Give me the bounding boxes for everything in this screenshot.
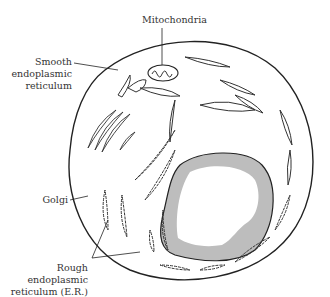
label-rough-er-line1: Rough <box>0 262 88 274</box>
mitochondrion <box>148 65 178 81</box>
label-golgi: Golgi <box>0 194 68 206</box>
label-rough-er: Rough endoplasmic reticulum (E.R.) <box>0 262 88 297</box>
label-smooth-er-line1: Smooth <box>0 56 72 68</box>
label-smooth-er: Smooth endoplasmic reticulum <box>0 56 72 92</box>
label-mitochondria: Mitochondria <box>142 14 207 26</box>
cell-diagram <box>0 0 330 297</box>
golgi <box>88 110 135 152</box>
label-smooth-er-line3: reticulum <box>0 80 72 92</box>
label-rough-er-line2: endoplasmic <box>0 274 88 286</box>
label-rough-er-line3: reticulum (E.R.) <box>0 286 88 297</box>
label-smooth-er-line2: endoplasmic <box>0 68 72 80</box>
